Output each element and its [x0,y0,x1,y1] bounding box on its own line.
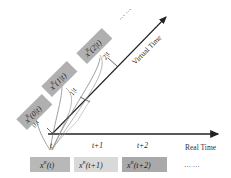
real-box-t: xR(t) [30,157,70,172]
real-tick-t2: t+2 [137,141,148,150]
virtual-tick-1: 1|t [68,86,79,97]
real-box-ellipsis: … … [184,161,200,169]
svg-text:xR(t+1): xR(t+1) [78,160,103,170]
real-time-label: Real Time [185,143,217,152]
svg-text:xR(t+2): xR(t+2) [126,160,151,170]
real-box-t1: xR(t+1) [74,157,118,172]
real-tick-t1: t+1 [92,141,103,150]
virtual-box-ellipsis: … … [116,5,133,22]
virtual-tick-2: 2|t [101,50,112,61]
svg-text:xR(t): xR(t) [39,160,55,170]
real-box-t2: xR(t+2) [122,157,167,172]
virtual-time-diagram: Real Time Virtual Time 0|t 1|t 2|t t t+1… [0,0,231,178]
virtual-time-label: Virtual Time [130,33,164,67]
